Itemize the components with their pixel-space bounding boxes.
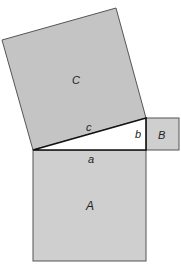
label-side-a: a (88, 153, 94, 165)
label-side-b: b (135, 128, 141, 140)
label-square-a: A (85, 199, 94, 213)
pythagorean-diagram: C c b B a A (0, 0, 181, 264)
label-square-c: C (72, 74, 80, 86)
label-square-b: B (158, 129, 165, 141)
label-side-c: c (86, 121, 92, 133)
